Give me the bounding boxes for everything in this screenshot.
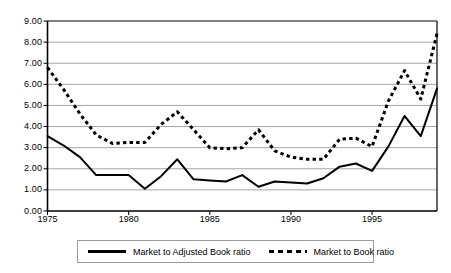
legend-label: Market to Adjusted Book ratio <box>133 247 251 257</box>
gridlines <box>48 42 438 190</box>
chart-figure: 9.008.007.006.005.004.003.002.001.000.00… <box>0 0 451 273</box>
chart-legend: Market to Adjusted Book ratioMarket to B… <box>77 240 374 263</box>
x-axis-tick-label: 1985 <box>190 214 230 224</box>
legend-entry-1: Market to Adjusted Book ratio <box>88 241 251 262</box>
legend-entry-2: Market to Book ratio <box>269 241 395 262</box>
x-axis-tick-label: 1990 <box>271 214 311 224</box>
legend-dashed-line-swatch <box>269 250 307 253</box>
legend-label: Market to Book ratio <box>314 247 395 257</box>
x-axis-tick-label: 1995 <box>352 214 392 224</box>
series-line-2 <box>48 34 438 160</box>
x-axis-tick-label: 1980 <box>109 214 149 224</box>
legend-row: Market to Adjusted Book ratioMarket to B… <box>78 241 373 262</box>
axis-lines <box>44 21 438 211</box>
data-series-group <box>48 34 438 189</box>
legend-solid-line-swatch <box>88 250 126 253</box>
x-axis-tick-label: 1975 <box>28 214 68 224</box>
chart-plot-area <box>0 0 451 273</box>
